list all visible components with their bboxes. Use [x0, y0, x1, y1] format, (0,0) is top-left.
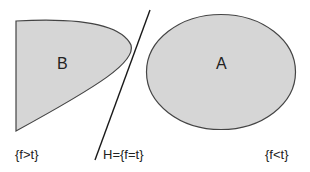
- halfspace-greater-label: {f>t}: [15, 147, 39, 162]
- region-b-label: B: [57, 55, 68, 73]
- region-b-shape: [16, 20, 131, 131]
- region-a-label: A: [216, 55, 227, 73]
- halfspace-less-label: {f<t}: [265, 147, 289, 162]
- hyperplane-label: H={f=t}: [103, 147, 143, 162]
- diagram-canvas: [0, 0, 310, 172]
